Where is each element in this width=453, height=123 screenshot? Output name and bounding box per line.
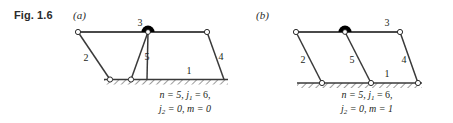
- panel-a-caption: n = 5, j1 = 6, j2 = 0, m = 0: [128, 89, 242, 116]
- panel-b-joint-top-right: [397, 29, 402, 34]
- ground-hatch-a: [104, 80, 228, 85]
- panel-a-label-2: 2: [84, 52, 89, 63]
- panel-b-caption: n = 5, j1 = 6, j2 = 0, m = 1: [310, 89, 424, 116]
- panel-a-joint-bottom-left: [107, 77, 112, 82]
- panel-b-joint-bottom-right: [415, 80, 420, 85]
- panel-a-label-4: 4: [219, 51, 224, 62]
- panel-b-linkage: 3 2 5 4 1: [293, 17, 422, 88]
- figure-container: Fig. 1.6 (a) (b): [0, 0, 453, 123]
- panel-b-label-3: 3: [385, 17, 390, 28]
- panel-a-label-1: 1: [187, 65, 192, 76]
- panel-b-joint-top-left: [293, 29, 298, 34]
- panel-b-caption-line-1: n = 5, j1 = 6,: [310, 89, 424, 103]
- panel-b-label-5: 5: [350, 54, 355, 65]
- panel-a-joint-bottom-mid: [128, 77, 133, 82]
- panel-b-joint-bottom-mid: [368, 80, 373, 85]
- panel-a-label-5: 5: [145, 51, 150, 62]
- ground-hatch-b: [297, 83, 422, 88]
- panel-b-label-4: 4: [402, 54, 407, 65]
- panel-b-label-2: 2: [301, 54, 306, 65]
- panel-b-label-1: 1: [385, 68, 390, 79]
- panel-b-joint-center: [343, 30, 348, 35]
- panel-a-caption-line-1: n = 5, j1 = 6,: [128, 89, 242, 103]
- panel-a-caption-line-2: j2 = 0, m = 0: [128, 103, 242, 117]
- panel-a-label-3: 3: [138, 17, 143, 28]
- panel-a-linkage: 3 2 5 4 1: [75, 17, 228, 85]
- panel-b-caption-line-2: j2 = 0, m = 1: [310, 103, 424, 117]
- panel-a-joint-center: [146, 30, 151, 35]
- panel-a-joint-top-right: [204, 29, 209, 34]
- panel-b-joint-bottom-left: [319, 80, 324, 85]
- panel-a-joint-top-left: [75, 29, 80, 34]
